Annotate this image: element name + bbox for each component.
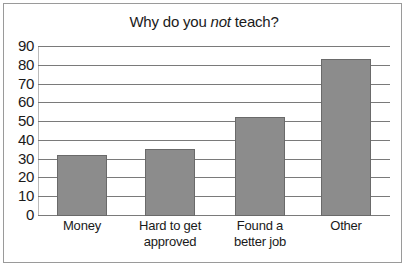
bar-hard-to-get-approved (145, 149, 195, 216)
y-tick-label: 10 (6, 188, 34, 204)
x-tick-label-line: Hard to get (125, 218, 215, 234)
x-tick-label-line: better job (215, 234, 305, 250)
x-tick-label-line: Other (301, 218, 391, 234)
bar-other (321, 59, 371, 216)
gridline (38, 46, 390, 47)
y-axis (38, 46, 39, 215)
y-tick-label: 30 (6, 151, 34, 167)
bar-money (57, 155, 107, 216)
x-tick-label: Found abetter job (215, 218, 305, 250)
x-tick-label-line: Money (37, 218, 127, 234)
x-tick-label-line: Found a (215, 218, 305, 234)
x-tick-label: Other (301, 218, 391, 234)
y-tick-label: 80 (6, 57, 34, 73)
x-tick-label: Hard to getapproved (125, 218, 215, 250)
y-tick-label: 50 (6, 113, 34, 129)
y-tick-label: 70 (6, 76, 34, 92)
y-tick-label: 60 (6, 94, 34, 110)
y-tick-label: 90 (6, 38, 34, 54)
y-tick-label: 20 (6, 169, 34, 185)
x-tick-label: Money (37, 218, 127, 234)
bar-found-a-better-job (235, 117, 285, 216)
x-tick-label-line: approved (125, 234, 215, 250)
y-tick-label: 0 (6, 207, 34, 223)
y-tick-label: 40 (6, 132, 34, 148)
